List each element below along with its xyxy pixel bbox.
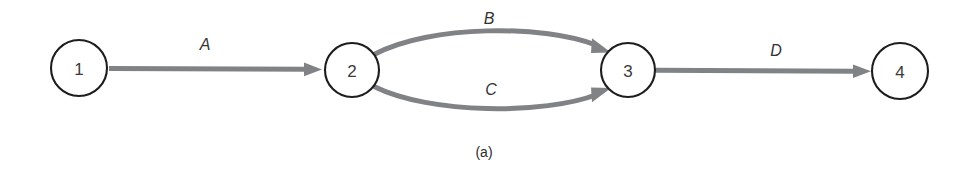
figure-container: A B C D 1 2 3 bbox=[0, 0, 966, 174]
node-2[interactable]: 2 bbox=[325, 43, 379, 97]
edge-a-label: A bbox=[199, 36, 211, 53]
edge-d-arrowhead bbox=[853, 65, 871, 79]
node-2-label: 2 bbox=[347, 62, 356, 81]
node-3-label: 3 bbox=[623, 62, 632, 81]
node-1[interactable]: 1 bbox=[51, 40, 107, 96]
edge-b-label: B bbox=[484, 10, 495, 27]
edge-c-arrowhead bbox=[591, 88, 611, 103]
node-4[interactable]: 4 bbox=[872, 43, 928, 99]
edge-d-line bbox=[656, 70, 855, 71]
node-1-label: 1 bbox=[74, 60, 83, 79]
edge-a-arrowhead bbox=[304, 63, 322, 77]
edge-b[interactable]: B bbox=[374, 10, 611, 55]
edge-d-label: D bbox=[770, 42, 782, 59]
edge-c[interactable]: C bbox=[374, 81, 611, 109]
edge-b-line bbox=[374, 31, 597, 55]
edge-c-label: C bbox=[485, 81, 497, 98]
directed-graph: A B C D 1 2 3 bbox=[0, 0, 966, 174]
edge-d[interactable]: D bbox=[656, 42, 871, 79]
edge-a[interactable]: A bbox=[109, 36, 322, 77]
figure-caption: (a) bbox=[475, 144, 492, 160]
node-4-label: 4 bbox=[895, 63, 904, 82]
node-3[interactable]: 3 bbox=[601, 43, 655, 97]
edge-a-line bbox=[109, 69, 307, 70]
